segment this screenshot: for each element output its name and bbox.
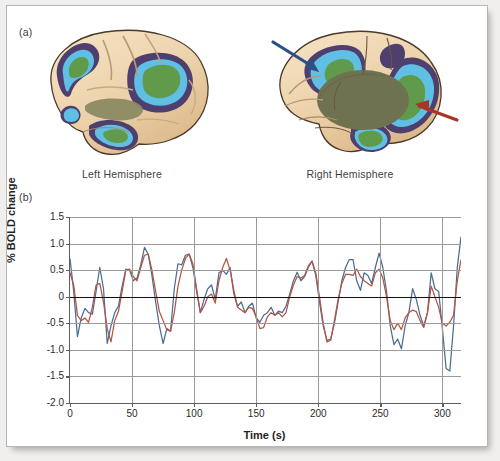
bold-timeseries-chart: % BOLD change Time (s) 1.51.00.50-0.5-1.… — [7, 201, 487, 441]
gridline-horizontal — [70, 323, 461, 324]
gridline-horizontal — [70, 376, 461, 377]
left-hemisphere-image — [27, 20, 219, 165]
y-tick-label: 0 — [30, 291, 64, 302]
gridline-vertical — [194, 217, 195, 403]
series-blue-trace — [70, 237, 461, 371]
gridline-horizontal — [70, 350, 461, 351]
x-tick-mark — [256, 403, 257, 407]
x-tick-mark — [132, 403, 133, 407]
x-tick-mark — [194, 403, 195, 407]
y-tick-label: -1.0 — [30, 344, 64, 355]
y-tick-label: -2.0 — [30, 397, 64, 408]
y-tick-mark — [66, 323, 70, 324]
y-tick-mark — [66, 217, 70, 218]
x-tick-label: 250 — [360, 408, 400, 419]
x-tick-label: 300 — [422, 408, 462, 419]
y-tick-label: 1.5 — [30, 211, 64, 222]
figure-panel: (a) (b) — [6, 5, 488, 447]
y-tick-mark — [66, 244, 70, 245]
gridline-vertical — [442, 217, 443, 403]
x-tick-mark — [70, 403, 71, 407]
gridline-vertical — [318, 217, 319, 403]
right-hemisphere-label: Right Hemisphere — [250, 168, 450, 180]
x-axis-title: Time (s) — [69, 429, 460, 441]
left-hemisphere-label: Left Hemisphere — [22, 168, 222, 180]
x-tick-mark — [380, 403, 381, 407]
x-tick-label: 100 — [174, 408, 214, 419]
right-hemisphere-image — [255, 20, 465, 165]
y-tick-mark — [66, 350, 70, 351]
brain-illustrations: Left Hemisphere Right Hemisphere — [7, 20, 487, 185]
gridline-horizontal — [70, 217, 461, 218]
gridline-vertical — [132, 217, 133, 403]
x-tick-label: 200 — [298, 408, 338, 419]
y-tick-mark — [66, 376, 70, 377]
trace-layer — [70, 217, 461, 403]
y-tick-label: 0.5 — [30, 264, 64, 275]
y-tick-label: 1.0 — [30, 238, 64, 249]
y-tick-mark — [66, 270, 70, 271]
gridline-horizontal — [70, 270, 461, 271]
gridline-vertical — [256, 217, 257, 403]
gridline-vertical — [380, 217, 381, 403]
x-tick-label: 0 — [50, 408, 90, 419]
gridline-horizontal — [70, 244, 461, 245]
y-axis-title: % BOLD change — [6, 177, 17, 263]
y-tick-label: -0.5 — [30, 317, 64, 328]
x-tick-mark — [318, 403, 319, 407]
x-tick-mark — [442, 403, 443, 407]
x-tick-label: 150 — [236, 408, 276, 419]
zero-reference-line — [70, 297, 461, 299]
x-tick-label: 50 — [112, 408, 152, 419]
plot-area: 1.51.00.50-0.5-1.0-1.5-2.005010015020025… — [69, 217, 461, 404]
y-tick-label: -1.5 — [30, 370, 64, 381]
